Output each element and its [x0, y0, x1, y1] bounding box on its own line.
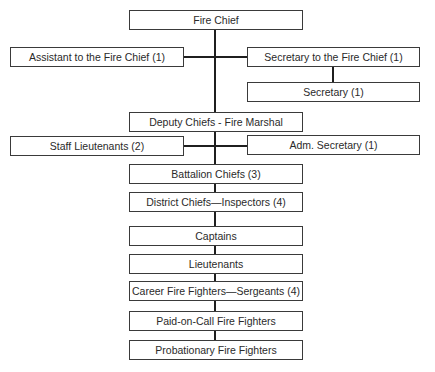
node-lieutenants: Lieutenants: [129, 254, 303, 274]
node-fire-chief: Fire Chief: [129, 10, 303, 30]
node-probationary: Probationary Fire Fighters: [129, 340, 303, 360]
connector-staff-row2: [184, 145, 247, 147]
node-paid-on-call: Paid-on-Call Fire Fighters: [129, 311, 303, 331]
node-career-fire-fighters: Career Fire Fighters—Sergeants (4): [129, 281, 303, 301]
connector-secretary: [332, 66, 334, 82]
connector-staff-row1: [184, 56, 247, 58]
node-secretary-to-fire-chief: Secretary to the Fire Chief (1): [247, 47, 420, 67]
node-deputy-chiefs: Deputy Chiefs - Fire Marshal: [129, 112, 303, 132]
connector-main-spine-top: [214, 30, 216, 112]
node-secretary: Secretary (1): [247, 82, 420, 102]
node-adm-secretary: Adm. Secretary (1): [247, 135, 420, 155]
node-battalion-chiefs: Battalion Chiefs (3): [129, 164, 303, 184]
node-assistant-to-fire-chief: Assistant to the Fire Chief (1): [10, 47, 184, 67]
node-captains: Captains: [129, 226, 303, 246]
node-staff-lieutenants: Staff Lieutenants (2): [10, 136, 184, 156]
node-district-chiefs: District Chiefs—Inspectors (4): [129, 192, 303, 212]
